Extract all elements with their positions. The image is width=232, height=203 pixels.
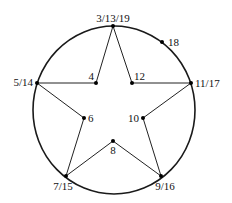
edge-left-n6 [37,83,84,118]
edge-n6-bl [66,118,84,176]
node-dot-n18 [160,40,164,44]
node-label-n18: 18 [168,36,180,48]
node-dot-left [35,81,39,85]
node-label-n4: 4 [89,70,95,82]
node-dot-n4 [94,81,98,85]
node-label-n12: 12 [134,70,145,82]
node-dot-right [189,81,193,85]
node-label-n8: 8 [110,144,116,156]
node-dot-bl [64,174,68,178]
node-dot-n10 [141,116,145,120]
star-circle-diagram: 3/13/19185/1411/1741261087/159/16 [0,0,232,203]
edge-br-n10 [143,118,161,176]
node-dot-top [111,24,115,28]
node-dot-n6 [82,116,86,120]
node-label-br: 9/16 [155,180,175,192]
node-dot-n8 [111,139,115,143]
edge-top-n4 [96,26,113,83]
node-labels: 3/13/19185/1411/1741261087/159/16 [13,12,220,192]
outer-circle [33,26,195,194]
node-label-n6: 6 [88,112,94,124]
edge-n8-br [113,141,161,176]
edge-n12-top [113,26,132,83]
node-label-left: 5/14 [13,76,33,88]
edge-n10-right [143,83,191,118]
edge-bl-n8 [66,141,113,176]
node-dot-br [159,174,163,178]
node-label-n10: 10 [128,112,140,124]
node-label-top: 3/13/19 [96,12,130,24]
node-label-bl: 7/15 [53,180,73,192]
node-label-right: 11/17 [195,77,220,89]
